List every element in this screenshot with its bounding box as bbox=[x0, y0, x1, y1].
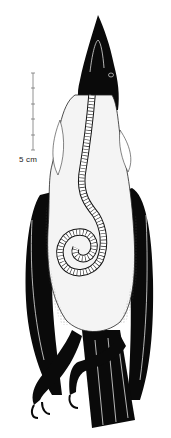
bird-dissection-drawing bbox=[0, 0, 171, 438]
scale-bar bbox=[31, 73, 35, 150]
scale-bar-label: 5 cm bbox=[19, 155, 37, 164]
tail bbox=[82, 330, 135, 428]
